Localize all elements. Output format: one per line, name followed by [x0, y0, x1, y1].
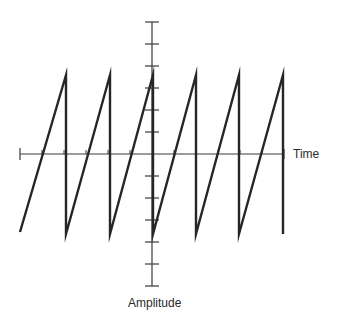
time-axis-label: Time	[293, 147, 319, 161]
sawtooth-diagram	[0, 0, 340, 319]
amplitude-axis-label: Amplitude	[128, 296, 181, 310]
